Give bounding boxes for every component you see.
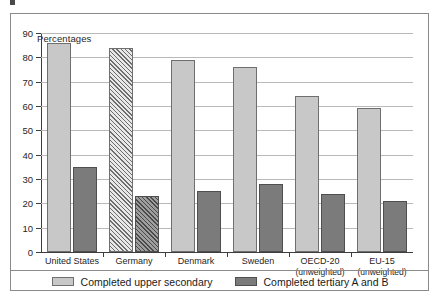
y-tick-20 xyxy=(36,203,41,204)
legend-divider xyxy=(11,270,428,271)
legend-item-0[interactable]: Completed upper secondary xyxy=(52,276,213,288)
category-label-main: Sweden xyxy=(242,256,275,266)
y-axis-label-70: 70 xyxy=(22,76,33,87)
legend-label-1: Completed tertiary A and B xyxy=(264,276,389,288)
bar-tertiary-2 xyxy=(197,191,221,252)
category-label-main: Denmark xyxy=(178,256,215,266)
bar-tertiary-5 xyxy=(383,201,407,252)
y-tick-0 xyxy=(36,252,41,253)
y-axis-label-10: 10 xyxy=(22,222,33,233)
bar-upper-secondary-2 xyxy=(171,60,195,252)
bar-tertiary-4 xyxy=(321,194,345,252)
category-label-2: Denmark xyxy=(165,256,227,267)
category-label-1: Germany xyxy=(103,256,165,267)
corner-tick-mark xyxy=(10,0,15,5)
y-axis-label-50: 50 xyxy=(22,125,33,136)
bar-upper-secondary-5 xyxy=(357,108,381,252)
bar-upper-secondary-3 xyxy=(233,67,257,252)
y-axis-label-90: 90 xyxy=(22,28,33,39)
y-tick-50 xyxy=(36,130,41,131)
bar-upper-secondary-1 xyxy=(109,48,133,252)
bar-upper-secondary-0 xyxy=(47,43,71,252)
y-axis-label-0: 0 xyxy=(28,247,33,258)
category-label-main: EU-15 xyxy=(369,256,395,266)
y-axis-label-60: 60 xyxy=(22,101,33,112)
gridline-90 xyxy=(41,33,413,34)
gridline-80 xyxy=(41,57,413,58)
legend-item-1[interactable]: Completed tertiary A and B xyxy=(235,276,389,288)
y-tick-60 xyxy=(36,106,41,107)
category-label-main: OECD-20 xyxy=(300,256,339,266)
legend-label-0: Completed upper secondary xyxy=(81,276,213,288)
chart-legend: Completed upper secondaryCompleted terti… xyxy=(0,273,440,290)
bar-tertiary-3 xyxy=(259,184,283,252)
y-axis-label-30: 30 xyxy=(22,174,33,185)
gridline-60 xyxy=(41,106,413,107)
y-tick-10 xyxy=(36,228,41,229)
y-axis-label-20: 20 xyxy=(22,198,33,209)
y-tick-40 xyxy=(36,155,41,156)
y-tick-30 xyxy=(36,179,41,180)
y-tick-90 xyxy=(36,33,41,34)
plot-area: 9080706050403020100 xyxy=(41,33,413,252)
category-label-main: Germany xyxy=(115,256,152,266)
y-tick-70 xyxy=(36,82,41,83)
bar-upper-secondary-4 xyxy=(295,96,319,252)
y-axis-label-40: 40 xyxy=(22,149,33,160)
category-label-0: United States xyxy=(41,256,103,267)
category-label-main: United States xyxy=(45,256,99,266)
y-axis-label-80: 80 xyxy=(22,52,33,63)
y-tick-80 xyxy=(36,57,41,58)
bar-tertiary-1 xyxy=(135,196,159,252)
legend-swatch-dark xyxy=(235,277,257,286)
gridline-70 xyxy=(41,82,413,83)
legend-swatch-light xyxy=(52,277,74,286)
bar-tertiary-0 xyxy=(73,167,97,252)
category-label-3: Sweden xyxy=(227,256,289,267)
